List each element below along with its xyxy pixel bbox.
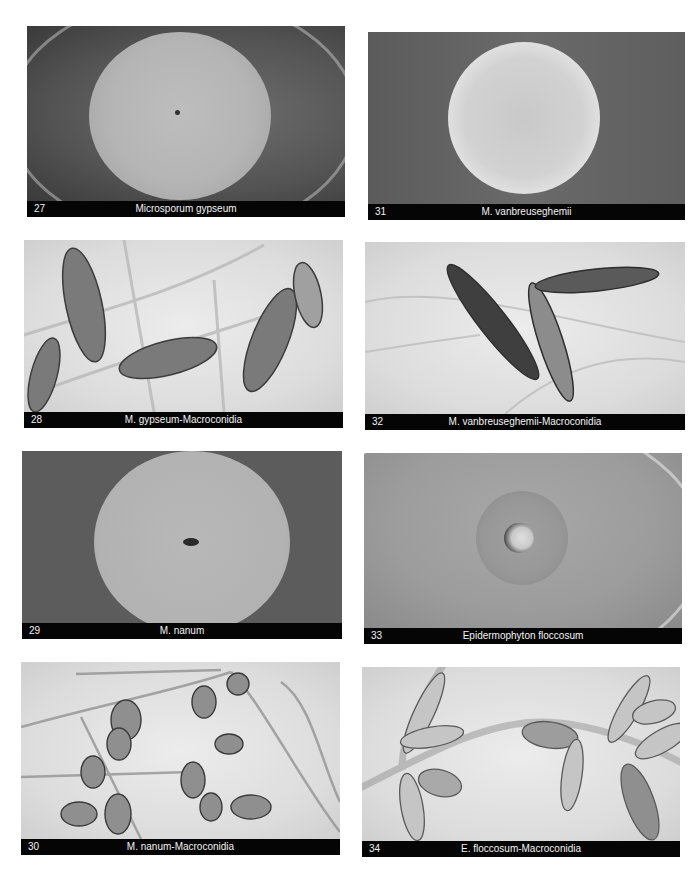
plate-title: E. floccosum-Macroconidia [362,841,680,857]
caption-bar: 31 M. vanbreuseghemii [368,204,685,220]
caption-bar: 30 M. nanum-Macroconidia [21,839,340,855]
plate-title: M. gypseum-Macroconidia [24,412,343,428]
photo-m-nanum-colony [22,451,342,623]
plate-title: M. vanbreuseghemii [368,204,685,220]
caption-bar: 29 M. nanum [22,623,342,639]
colony-center-dot [175,110,180,115]
caption-bar: 27 Microsporum gypseum [27,201,345,217]
plate-title: Epidermophyton floccosum [364,628,682,644]
plate-title: Microsporum gypseum [27,201,345,217]
plate-29: 29 M. nanum [22,451,342,639]
plate-27: 27 Microsporum gypseum [27,26,345,217]
caption-bar: 32 M. vanbreuseghemii-Macroconidia [365,414,685,430]
colony-m-nanum [94,451,290,623]
plate-title: M. vanbreuseghemii-Macroconidia [365,414,685,430]
plate-34: 34 E. floccosum-Macroconidia [362,667,680,857]
macroconidia-illustration [24,240,343,412]
caption-bar: 28 M. gypseum-Macroconidia [24,412,343,428]
colony-center-dot [183,538,199,546]
plate-title: M. nanum [22,623,342,639]
photo-e-floccosum-macroconidia [362,667,680,841]
photo-m-vanbreuseghemii-colony [368,32,685,204]
plate-28: 28 M. gypseum-Macroconidia [24,240,343,428]
plate-title: M. nanum-Macroconidia [21,839,340,855]
caption-bar: 34 E. floccosum-Macroconidia [362,841,680,857]
macroconidia-illustration [21,662,340,839]
caption-bar: 33 Epidermophyton floccosum [364,628,682,644]
photo-microsporum-gypseum-colony [27,26,345,201]
plate-33: 33 Epidermophyton floccosum [364,453,682,644]
photo-epidermophyton-floccosum-colony [364,453,682,628]
photo-m-vanbreuseghemii-macroconidia [365,242,685,414]
photo-m-nanum-macroconidia [21,662,340,839]
plate-32: 32 M. vanbreuseghemii-Macroconidia [365,242,685,430]
plate-30: 30 M. nanum-Macroconidia [21,662,340,855]
colony-center-heap [504,523,534,553]
photo-m-gypseum-macroconidia [24,240,343,412]
macroconidia-illustration [362,667,680,841]
plate-31: 31 M. vanbreuseghemii [368,32,685,220]
macroconidia-illustration [365,242,685,414]
colony-m-vanbreuseghemii [448,42,600,194]
colony-microsporum-gypseum [89,32,271,200]
